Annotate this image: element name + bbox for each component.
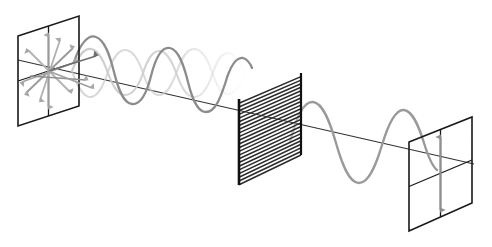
wave-transmitted-path	[290, 102, 437, 183]
wave-transmitted	[290, 102, 437, 183]
polarizer-grating-lines	[239, 77, 301, 185]
polarizer-panel	[239, 73, 301, 185]
screen-panel	[409, 117, 472, 231]
wave-vertical-component	[74, 36, 252, 112]
scene-canvas	[0, 0, 492, 247]
polarization-diagram	[0, 0, 492, 247]
source-panel	[18, 16, 96, 126]
wave-vertical-path	[74, 36, 252, 112]
